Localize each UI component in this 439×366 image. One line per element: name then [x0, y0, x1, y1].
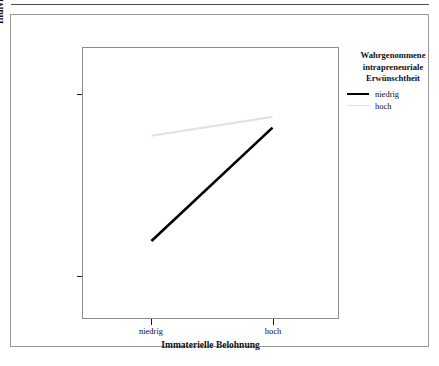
legend: Wahrgenommene intrapreneuriale Erwünscht…	[347, 50, 439, 112]
legend-label-niedrig: niedrig	[375, 89, 399, 99]
series-line-niedrig	[151, 128, 272, 241]
y-axis-title: Individuelle Kreativität	[0, 0, 5, 65]
legend-items: niedrig hoch	[347, 88, 439, 112]
legend-item-hoch: hoch	[347, 100, 439, 112]
plot-panel	[82, 47, 339, 319]
legend-title: Wahrgenommene intrapreneuriale Erwünscht…	[347, 50, 439, 85]
figure-frame: Individuelle Kreativität hoch niedrig ni…	[10, 14, 429, 347]
plot-lines	[83, 48, 338, 318]
legend-swatch-hoch	[347, 105, 369, 106]
legend-title-line-2: intrapreneuriale	[347, 62, 439, 74]
x-tick-label-niedrig: niedrig	[121, 326, 181, 336]
x-tick-label-hoch: hoch	[243, 326, 303, 336]
legend-label-hoch: hoch	[375, 101, 392, 111]
x-tick-mark-niedrig	[151, 319, 152, 325]
x-tick-mark-hoch	[273, 319, 274, 325]
legend-item-niedrig: niedrig	[347, 88, 439, 100]
x-axis-title: Immaterielle Belohnung	[82, 340, 339, 350]
legend-title-line-3: Erwünschtheit	[347, 73, 439, 85]
legend-swatch-niedrig	[347, 93, 369, 95]
legend-title-line-1: Wahrgenommene	[347, 50, 439, 62]
series-line-hoch	[151, 117, 272, 136]
top-divider-rule	[11, 4, 429, 5]
